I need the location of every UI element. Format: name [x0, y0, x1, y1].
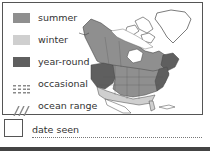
date-seen-label: date seen — [32, 124, 79, 135]
legend-item-occasional: occasional — [13, 78, 88, 90]
year-round-swatch-icon — [13, 57, 30, 67]
date-seen-line[interactable] — [32, 137, 202, 138]
legend-item-winter: winter — [13, 34, 68, 46]
ocean-range-hatch-icon — [13, 101, 30, 111]
legend-item-summer: summer — [13, 12, 77, 24]
occasional-dots-icon — [13, 79, 30, 89]
north-america-range-map — [79, 7, 203, 115]
summer-swatch-icon — [13, 13, 30, 23]
legend-label: winter — [38, 34, 68, 46]
winter-swatch-icon — [13, 35, 30, 45]
legend-label: summer — [38, 12, 77, 24]
bottom-divider — [0, 147, 210, 151]
date-seen-checkbox[interactable] — [4, 119, 23, 137]
range-map-panel: summer winter year-round occasional — [2, 2, 203, 115]
